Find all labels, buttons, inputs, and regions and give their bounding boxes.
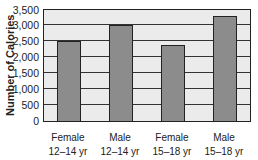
x-tick-line: Female xyxy=(147,131,197,145)
x-tick-line: 12–14 yr xyxy=(43,145,93,159)
y-tick-label: 3,000 xyxy=(13,20,39,30)
x-tick-line: Female xyxy=(43,131,93,145)
y-tick-label: 500 xyxy=(21,100,39,110)
y-tick-label: 2,500 xyxy=(13,36,39,46)
x-tick-label: Male15–18 yr xyxy=(199,131,249,159)
y-tick-label: 0 xyxy=(33,116,39,126)
bar xyxy=(213,16,237,121)
y-tick-label: 1,000 xyxy=(13,84,39,94)
bar xyxy=(57,41,81,121)
x-tick-line: 12–14 yr xyxy=(95,145,145,159)
y-tick-label: 1,500 xyxy=(13,68,39,78)
x-tick-line: Male xyxy=(199,131,249,145)
x-tick-label: Male12–14 yr xyxy=(95,131,145,159)
x-tick-label: Female15–18 yr xyxy=(147,131,197,159)
bar xyxy=(109,25,133,121)
bar xyxy=(161,45,185,121)
x-tick-line: 15–18 yr xyxy=(199,145,249,159)
y-tick-label: 3,500 xyxy=(13,5,39,15)
plot-area xyxy=(43,9,251,122)
x-tick-line: 15–18 yr xyxy=(147,145,197,159)
y-axis-label: Number of Calories xyxy=(4,16,16,116)
y-tick-label: 2,000 xyxy=(13,52,39,62)
x-tick-line: Male xyxy=(95,131,145,145)
x-tick-label: Female12–14 yr xyxy=(43,131,93,159)
